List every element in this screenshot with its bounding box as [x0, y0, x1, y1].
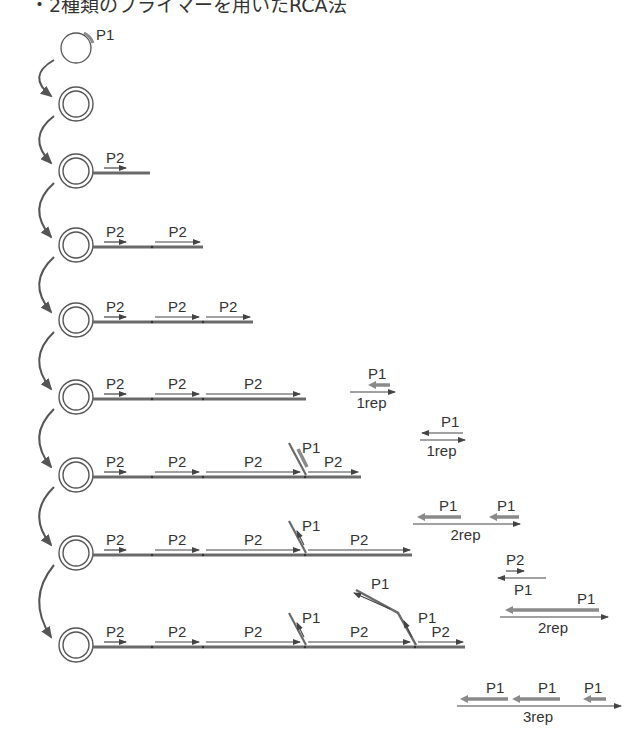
p2-label: P2 [168, 623, 186, 640]
p1-label: P1 [302, 517, 320, 534]
circular-template-inner [63, 384, 89, 410]
repeat-label: 1rep [357, 394, 387, 411]
row-2 [59, 87, 93, 121]
p1-label: P1 [368, 365, 386, 382]
p2-label: P2 [169, 223, 187, 240]
p2-label: P2 [219, 298, 237, 315]
circular-template-outer [59, 380, 93, 414]
junction-dot [202, 398, 204, 400]
p1-label: P1 [486, 679, 504, 696]
junction-dot [202, 554, 204, 556]
p1-arrowhead [489, 513, 497, 521]
p2-label: P2 [350, 531, 368, 548]
p2-label: P2 [244, 623, 262, 640]
circular-template-outer [59, 536, 93, 570]
row-7: P2P2P2P2P1 [59, 439, 361, 492]
circular-template-outer [59, 228, 93, 262]
step-arrow [39, 565, 54, 637]
step-arrow [39, 60, 54, 96]
amplification-rows: P1P2P2P2P2P2P2P2P2P2P2P2P2P2P1P2P2P2P2P1… [59, 26, 465, 662]
p1-arrowhead [368, 381, 376, 389]
p1-label: P1 [577, 590, 595, 607]
row-4: P2P2 [59, 223, 203, 262]
circular-template-inner [63, 91, 89, 117]
p2-label: P2 [244, 531, 262, 548]
p1-label: P1 [371, 575, 389, 592]
junction-dot [304, 476, 306, 478]
p2-label: P2 [168, 298, 186, 315]
p1-branch: P1 [289, 439, 320, 475]
p2-label: P2 [506, 551, 524, 568]
product-1: P11rep [350, 365, 395, 411]
circular-template-inner [63, 232, 89, 258]
step-arrow [39, 257, 54, 312]
junction-dot [304, 554, 306, 556]
junction-dot [202, 646, 204, 648]
p1-label: P1 [538, 679, 556, 696]
p1-arrowhead [417, 513, 425, 521]
p2-label: P2 [106, 298, 124, 315]
circular-template [61, 33, 91, 63]
p1-label: P1 [418, 609, 436, 626]
circular-template-inner [63, 307, 89, 333]
junction-dot [202, 321, 204, 323]
junction-dot [202, 476, 204, 478]
circular-template-outer [59, 303, 93, 337]
row-8: P2P2P2P2P1 [59, 517, 412, 570]
circular-template-outer [59, 154, 93, 188]
repeat-label: 1rep [427, 442, 457, 459]
junction-dot [151, 398, 153, 400]
junction-dot [151, 321, 153, 323]
step-arrows [39, 60, 54, 637]
circular-template-inner [63, 158, 89, 184]
p1-arrowhead [512, 695, 520, 703]
junction-dot [304, 646, 306, 648]
p2-label: P2 [168, 531, 186, 548]
p2-label: P2 [106, 531, 124, 548]
p2-label: P2 [244, 375, 262, 392]
p1-arrowhead [460, 695, 468, 703]
repeat-label: 3rep [523, 708, 553, 725]
step-arrow [39, 116, 54, 163]
p1-label: P1 [96, 26, 114, 43]
p1-arrow [354, 593, 390, 609]
product-2: P11rep [420, 413, 465, 459]
circular-template-inner [63, 462, 89, 488]
p1-label: P1 [497, 497, 515, 514]
junction-dot [414, 646, 416, 648]
p2-label: P2 [168, 375, 186, 392]
product-4: P2P1 [498, 551, 546, 598]
p1-branch: P1 [289, 609, 320, 645]
junction-dot [151, 476, 153, 478]
step-arrow [39, 409, 54, 467]
p1-label: P1 [302, 439, 320, 456]
step-arrow [39, 487, 54, 545]
released-products: P11repP11repP1P12repP2P1P12repP1P1P13rep [350, 365, 621, 725]
circular-template-outer [59, 87, 93, 121]
row-1: P1 [61, 26, 114, 63]
junction-dot [151, 246, 153, 248]
p1-label: P1 [514, 581, 532, 598]
p1-arrowhead [505, 606, 513, 614]
junction-dot [151, 554, 153, 556]
repeat-label: 2rep [451, 526, 481, 543]
circular-template-outer [59, 628, 93, 662]
step-arrow [39, 332, 54, 389]
p1-arrowhead [583, 695, 591, 703]
p1-branch: P1 [289, 517, 320, 553]
row-6: P2P2P2 [59, 375, 306, 414]
product-3: P1P12rep [413, 497, 520, 543]
circular-template-inner [63, 632, 89, 658]
p2-label: P2 [106, 623, 124, 640]
p2-label: P2 [106, 375, 124, 392]
step-arrow [39, 183, 54, 237]
row-5: P2P2P2 [59, 298, 253, 337]
p1-label: P1 [302, 609, 320, 626]
p1-arrow [404, 621, 412, 637]
repeat-label: 2rep [538, 619, 568, 636]
p1-label: P1 [441, 413, 459, 430]
p1-label: P1 [439, 497, 457, 514]
junction-dot [151, 646, 153, 648]
p2-label: P2 [106, 453, 124, 470]
circular-template-outer [59, 458, 93, 492]
